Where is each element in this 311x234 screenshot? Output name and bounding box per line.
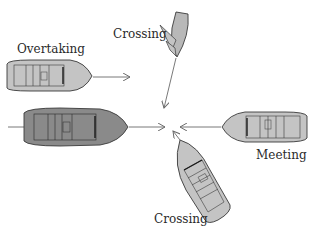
meeting-boat	[222, 112, 307, 142]
overtaken-boat	[24, 108, 128, 146]
crossing-bottom-boat	[177, 140, 230, 223]
label-meeting: Meeting	[256, 149, 307, 161]
label-crossing-top: Crossing	[113, 28, 167, 40]
label-crossing-bottom: Crossing	[154, 213, 208, 225]
overtaking-boat	[7, 60, 92, 91]
label-overtaking: Overtaking	[17, 43, 85, 55]
crossing-bottom-arrow	[173, 131, 180, 140]
crossing-top-arrow	[164, 58, 176, 108]
